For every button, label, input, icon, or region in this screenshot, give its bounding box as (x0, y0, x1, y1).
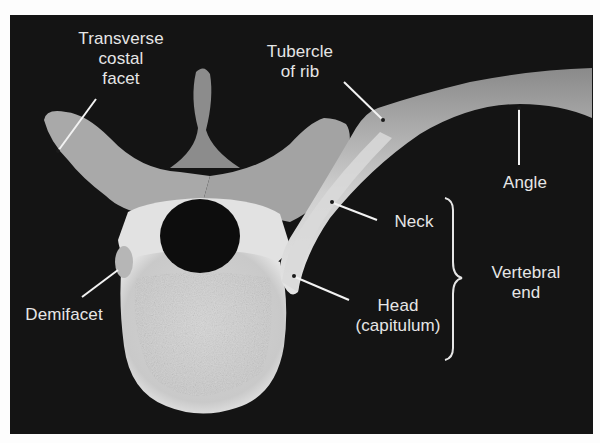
vertebral-foramen (160, 199, 240, 273)
label-vertebral-end: Vertebral end (476, 263, 576, 303)
label-head-capitulum: Head (capitulum) (343, 296, 453, 336)
anatomy-photo: Transverse costal facet Tubercle of rib … (10, 15, 593, 434)
spinous-process (170, 68, 240, 168)
label-angle: Angle (490, 173, 560, 193)
label-tubercle-of-rib: Tubercle of rib (260, 42, 340, 82)
label-transverse-costal-facet: Transverse costal facet (76, 29, 166, 89)
label-demifacet: Demifacet (14, 305, 114, 325)
label-neck: Neck (384, 212, 444, 232)
demifacet-bump (115, 246, 133, 278)
